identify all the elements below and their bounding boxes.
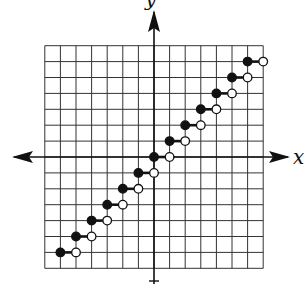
step-segment — [150, 153, 174, 162]
open-dot-icon — [197, 121, 206, 130]
open-dot-icon — [134, 185, 143, 194]
open-dot-icon — [119, 200, 128, 209]
closed-dot-icon — [72, 232, 81, 241]
step-segment — [181, 121, 205, 130]
open-dot-icon — [181, 137, 190, 146]
open-dot-icon — [103, 216, 112, 225]
open-dot-icon — [243, 73, 252, 82]
closed-dot-icon — [56, 248, 65, 257]
step-segment — [212, 89, 236, 98]
step-segment — [197, 105, 221, 114]
open-dot-icon — [150, 169, 159, 178]
open-dot-icon — [212, 105, 221, 114]
step-function-graph: x y — [0, 0, 306, 286]
closed-dot-icon — [87, 216, 96, 225]
axes: x y — [12, 0, 304, 284]
step-segment — [243, 57, 267, 66]
closed-dot-icon — [243, 57, 252, 66]
closed-dot-icon — [181, 121, 190, 130]
closed-dot-icon — [212, 89, 221, 98]
open-dot-icon — [87, 232, 96, 241]
step-segment — [56, 248, 80, 257]
closed-dot-icon — [150, 153, 159, 162]
step-segment — [72, 232, 96, 241]
closed-dot-icon — [119, 185, 128, 194]
closed-dot-icon — [134, 169, 143, 178]
open-dot-icon — [228, 89, 237, 98]
y-axis-label: y — [144, 0, 157, 11]
open-dot-icon — [259, 57, 268, 66]
closed-dot-icon — [228, 73, 237, 82]
step-segment — [165, 137, 189, 146]
step-segment — [119, 185, 143, 194]
step-segment — [103, 200, 127, 209]
step-segment — [134, 169, 158, 178]
open-dot-icon — [72, 248, 81, 257]
open-dot-icon — [165, 153, 174, 162]
x-axis-label: x — [293, 145, 304, 169]
step-segment — [228, 73, 252, 82]
closed-dot-icon — [165, 137, 174, 146]
step-segment — [87, 216, 111, 225]
closed-dot-icon — [197, 105, 206, 114]
closed-dot-icon — [103, 200, 112, 209]
